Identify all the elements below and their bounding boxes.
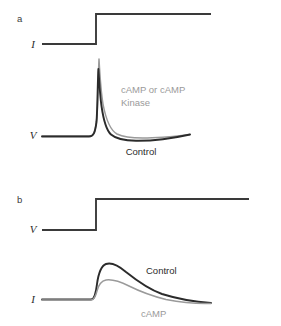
panel-b-label: b xyxy=(17,194,22,205)
panel-a-camp-label-line1: cAMP or cAMP xyxy=(121,84,185,95)
panel-a-control-label: Control xyxy=(126,146,157,157)
figure-background xyxy=(0,0,281,326)
panel-b-camp-label: cAMP xyxy=(141,308,166,319)
electrophysiology-figure: a I V cAMP or cAMP Kinase Control b V I xyxy=(0,0,281,326)
panel-a-label: a xyxy=(17,13,23,24)
panel-a-camp-label-line2: Kinase xyxy=(121,97,150,108)
figure-container: a I V cAMP or cAMP Kinase Control b V I xyxy=(0,0,281,326)
panel-b-control-label: Control xyxy=(146,265,177,276)
